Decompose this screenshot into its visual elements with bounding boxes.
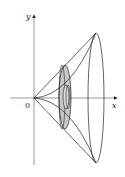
solid-of-revolution-diagram: y x 0: [0, 0, 125, 177]
diagram-canvas: y x 0: [0, 0, 125, 177]
x-axis-label: x: [112, 101, 117, 110]
origin-label: 0: [25, 101, 30, 110]
y-axis-label: y: [25, 12, 31, 21]
